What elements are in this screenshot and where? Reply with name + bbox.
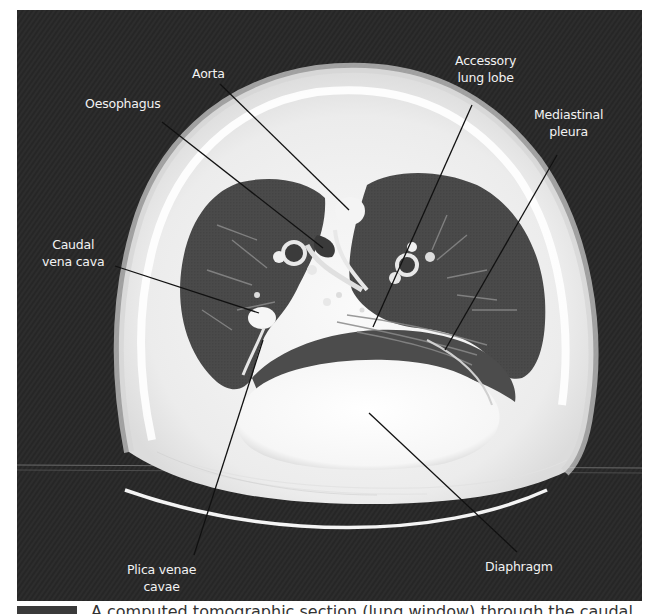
label-plica-venae-cavae: Plica venae cavae — [127, 561, 196, 595]
label-plica-line2: cavae — [127, 578, 196, 595]
figure-caption: A computed tomographic section (lung win… — [17, 604, 642, 614]
caption-figure-number-bar — [17, 606, 77, 614]
label-caudal-line2: vena cava — [42, 253, 104, 270]
label-oesophagus-text: Oesophagus — [85, 96, 161, 111]
label-mediastinal-line2: pleura — [534, 123, 603, 140]
label-mediastinal-pleura: Mediastinal pleura — [534, 106, 603, 140]
label-aorta-text: Aorta — [192, 66, 225, 81]
label-plica-line1: Plica venae — [127, 561, 196, 578]
label-accessory-line2: lung lobe — [455, 69, 516, 86]
figure-page: Aorta Oesophagus Accessory lung lobe Med… — [0, 0, 653, 614]
label-aorta: Aorta — [192, 65, 225, 82]
label-oesophagus: Oesophagus — [85, 95, 161, 112]
ct-scan-figure: Aorta Oesophagus Accessory lung lobe Med… — [17, 10, 642, 601]
label-mediastinal-line1: Mediastinal — [534, 106, 603, 123]
caption-text: A computed tomographic section (lung win… — [91, 604, 633, 614]
label-diaphragm-text: Diaphragm — [485, 559, 553, 574]
label-caudal-vena-cava: Caudal vena cava — [42, 236, 104, 270]
label-accessory-line1: Accessory — [455, 52, 516, 69]
label-caudal-line1: Caudal — [42, 236, 104, 253]
label-accessory-lung-lobe: Accessory lung lobe — [455, 52, 516, 86]
label-diaphragm: Diaphragm — [485, 558, 553, 575]
